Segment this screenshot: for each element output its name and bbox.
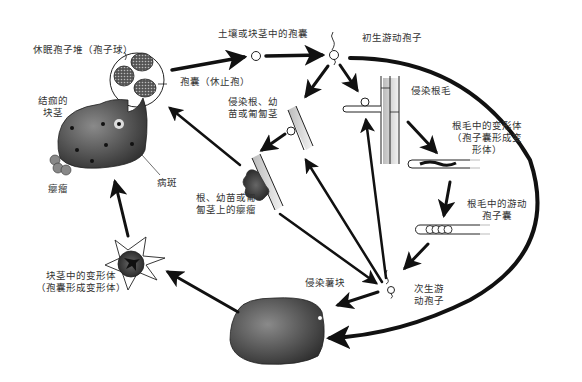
arrow-spore-ball-to-cyst — [172, 57, 244, 70]
cyst-in-soil — [252, 52, 261, 61]
secondary-zoospore — [386, 270, 395, 299]
label-primary-zoospore: 初生游动孢子 — [362, 32, 422, 44]
label-zoosporangium-in-root-hair: 根毛中的游动 孢子囊 — [467, 198, 527, 222]
arrow-secondary-to-root-segment — [306, 160, 382, 282]
label-scabbed-tuber: 结痂的 块茎 — [38, 95, 68, 119]
label-plasmodium-in-tuber: 块茎中的变形体 （孢囊形成变形体） — [36, 270, 126, 294]
label-cyst-resting: 孢囊（休止孢） — [180, 76, 250, 88]
resting-spore-ball — [110, 52, 167, 107]
label-infect-root-seedling-stolon: 侵染根、幼 苗或匍匐茎 — [228, 96, 278, 120]
label-cyst-in-soil: 土壤或块茎中的孢囊 — [218, 28, 308, 40]
label-gall: 瘿瘤 — [48, 183, 68, 195]
label-plasmodium-in-root-hair: 根毛中的变形体 （孢子囊形成变 形体） — [452, 120, 522, 156]
arrows — [115, 55, 538, 338]
arrow-plasmodium-to-zoosporangium — [444, 182, 450, 215]
zoosporangium-in-root-hair — [416, 225, 491, 234]
arrow-secondary-to-infected-tuber — [338, 292, 378, 305]
primary-zoospore — [330, 32, 339, 65]
arrow-cyst-to-primary-zoospore — [266, 55, 322, 56]
label-lesion: 病斑 — [157, 177, 177, 189]
life-cycle-diagram — [0, 0, 582, 382]
label-infect-tuber: 侵染薯块 — [305, 277, 345, 289]
arrow-zoospore-to-root-segment — [306, 66, 328, 96]
arrow-plasmodium-to-scabbed-tuber — [115, 182, 128, 236]
arrow-root-segment-to-gall — [262, 134, 285, 150]
plasmodium-in-root-hair — [408, 160, 480, 168]
arrow-infected-tuber-to-plasmodium — [168, 272, 238, 312]
label-secondary-zoospore: 次生游 动孢子 — [414, 283, 444, 307]
infected-tuber — [230, 298, 324, 365]
label-gall-on-root: 根、幼苗或匍 匐茎上的瘿瘤 — [196, 192, 256, 216]
label-infect-root-hair: 侵染根毛 — [411, 85, 451, 97]
arrow-zoospore-to-root-hair — [340, 65, 357, 90]
arrow-root-hair-to-plasmodium — [408, 122, 436, 152]
label-resting-spore-ball: 休眠孢子堆（孢子球） — [33, 44, 133, 56]
arrow-zoosporangium-to-secondary-zoospore — [405, 244, 428, 268]
infected-root-segment — [287, 106, 313, 150]
